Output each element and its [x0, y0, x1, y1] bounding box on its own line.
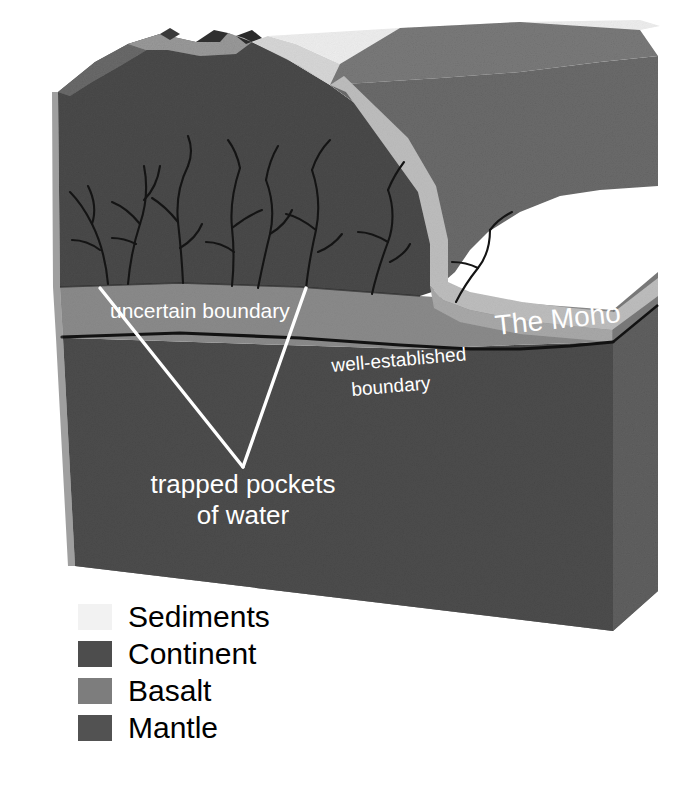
sediments-swatch: [78, 604, 112, 630]
label-trapped-line2: of water: [197, 500, 290, 530]
legend-item-basalt: Basalt: [78, 672, 408, 709]
legend-item-mantle: Mantle: [78, 709, 408, 746]
mantle-front-face: [63, 338, 613, 631]
mantle-right-face: [613, 305, 658, 631]
label-uncertain-boundary: uncertain boundary: [110, 299, 290, 322]
legend-label-sediments: Sediments: [128, 602, 270, 632]
basalt-swatch: [78, 678, 112, 704]
legend: Sediments Continent Basalt Mantle: [78, 598, 408, 746]
legend-label-continent: Continent: [128, 639, 256, 669]
legend-item-continent: Continent: [78, 635, 408, 672]
mantle-swatch: [78, 715, 112, 741]
continent-swatch: [78, 641, 112, 667]
label-trapped-line1: trapped pockets: [150, 469, 335, 499]
legend-item-sediments: Sediments: [78, 598, 408, 635]
legend-label-mantle: Mantle: [128, 713, 218, 743]
legend-label-basalt: Basalt: [128, 676, 211, 706]
figure-canvas: uncertain boundary well-established boun…: [0, 0, 686, 801]
